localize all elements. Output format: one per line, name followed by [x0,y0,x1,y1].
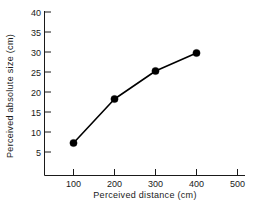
x-tick-label-100: 100 [66,179,81,189]
x-axis-ticks [74,169,238,176]
x-tick-label-300: 300 [148,179,163,189]
y-tick-label-30: 30 [31,48,41,58]
x-axis-tick-labels: 100 200 300 400 500 [66,179,245,189]
y-tick-label-10: 10 [31,128,41,138]
y-axis-tick-labels: 40 35 30 25 20 15 10 5 [31,8,41,158]
line-chart: 40 35 30 25 20 15 10 5 100 200 300 400 5… [0,0,253,209]
data-series-perceived-absolute-size [70,49,200,146]
x-tick-label-200: 200 [107,179,122,189]
y-axis-title: Perceived absolute size (cm) [5,34,15,158]
y-axis-ticks [45,12,52,152]
y-tick-label-5: 5 [36,148,41,158]
y-tick-label-35: 35 [31,28,41,38]
y-tick-label-40: 40 [31,8,41,18]
data-point [70,139,77,146]
y-tick-label-20: 20 [31,88,41,98]
series-line-path [74,53,197,143]
y-tick-label-15: 15 [31,108,41,118]
figure-caption [4,202,249,209]
data-point [193,49,200,56]
axis-lines [45,11,246,176]
x-axis-title: Perceived distance (cm) [93,190,196,200]
y-tick-label-25: 25 [31,68,41,78]
x-tick-label-500: 500 [230,179,245,189]
data-point [111,95,118,102]
figure-container: 40 35 30 25 20 15 10 5 100 200 300 400 5… [0,0,253,209]
x-tick-label-400: 400 [189,179,204,189]
data-point [152,67,159,74]
